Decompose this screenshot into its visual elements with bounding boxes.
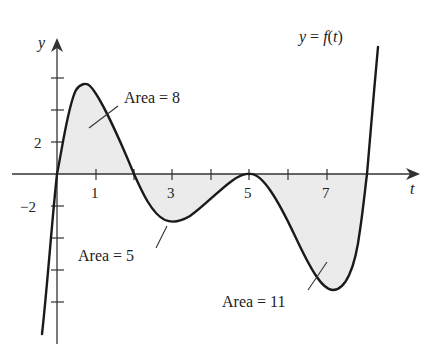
chart-figure: 1 3 5 7 2 −2 y t y = f(t) Area = 8 Area … <box>0 0 430 350</box>
t-tick-label-3: 3 <box>167 185 175 201</box>
function-label: y = f(t) <box>297 28 343 46</box>
y-tick-label-neg2: −2 <box>20 199 36 215</box>
t-tick-label-7: 7 <box>322 185 330 201</box>
chart-svg: 1 3 5 7 2 −2 y t y = f(t) Area = 8 Area … <box>0 0 430 350</box>
area-label-11: Area = 11 <box>222 293 286 310</box>
area-label-5: Area = 5 <box>78 247 134 264</box>
leader-line-area-5 <box>156 226 167 248</box>
shaded-region-area-8 <box>57 84 134 174</box>
t-axis-label: t <box>410 180 415 197</box>
area-label-8: Area = 8 <box>124 89 180 106</box>
y-axis-label: y <box>36 34 46 52</box>
t-tick-label-5: 5 <box>244 185 252 201</box>
y-tick-label-2: 2 <box>34 135 42 151</box>
t-tick-label-1: 1 <box>91 185 99 201</box>
